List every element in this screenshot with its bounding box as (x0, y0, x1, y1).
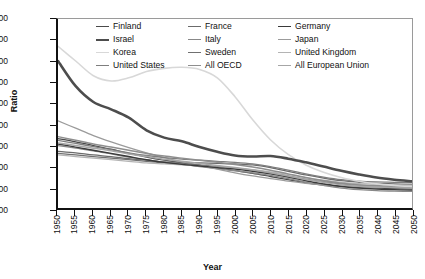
y-tick-label: 2.00 (0, 184, 8, 194)
x-tick-label: 2045 (391, 215, 401, 234)
legend-label: France (205, 21, 232, 32)
legend-label: Sweden (205, 47, 236, 58)
legend-item-united-states[interactable]: United States (96, 60, 188, 71)
legend-item-germany[interactable]: Germany (278, 21, 404, 32)
x-tick-label: 1995 (212, 215, 222, 234)
y-tick-label: 12.00 (0, 77, 8, 87)
x-tick-label: 1960 (87, 215, 97, 234)
y-axis-title: Ratio (9, 71, 19, 131)
legend-swatch-icon (188, 52, 201, 53)
x-tick-label: 2050 (409, 215, 419, 234)
legend-label: Korea (113, 47, 136, 58)
legend-item-japan[interactable]: Japan (278, 34, 404, 45)
x-tick-label: 2035 (355, 215, 365, 234)
x-tick-label: 1975 (141, 215, 151, 234)
x-tick-label: 1955 (69, 215, 79, 234)
chart-legend: FinlandFranceGermanyIsraelItalyJapanKore… (96, 20, 408, 72)
legend-label: Finland (113, 21, 141, 32)
legend-item-united-kingdom[interactable]: United Kingdom (278, 47, 404, 58)
x-tick-label: 2015 (284, 215, 294, 234)
legend-item-all-european-union[interactable]: All European Union (278, 60, 404, 71)
legend-swatch-icon (278, 52, 291, 53)
legend-label: Germany (295, 21, 330, 32)
legend-label: United Kingdom (295, 47, 356, 58)
legend-item-sweden[interactable]: Sweden (188, 47, 278, 58)
legend-label: All European Union (295, 60, 369, 71)
legend-swatch-icon (96, 65, 109, 66)
legend-swatch-icon (96, 52, 109, 53)
y-tick-label: 14.00 (0, 56, 8, 66)
legend-swatch-icon (96, 39, 109, 41)
x-tick-label: 2030 (337, 215, 347, 234)
x-tick-label: 1950 (52, 215, 62, 234)
legend-swatch-icon (188, 65, 201, 66)
x-tick-label: 1990 (194, 215, 204, 234)
legend-swatch-icon (188, 39, 201, 40)
y-tick-label: 6.00 (0, 141, 8, 151)
legend-swatch-icon (278, 39, 291, 40)
x-tick-label: 2000 (230, 215, 240, 234)
legend-item-italy[interactable]: Italy (188, 34, 278, 45)
legend-label: United States (113, 60, 165, 71)
x-tick-label: 1970 (123, 215, 133, 234)
y-tick-label: 10.00 (0, 98, 8, 108)
y-tick-label: 8.00 (0, 120, 8, 130)
legend-item-all-oecd[interactable]: All OECD (188, 60, 278, 71)
x-tick-label: 1965 (105, 215, 115, 234)
chart-figure: Ratio Year 0.002.004.006.008.0010.0012.0… (0, 0, 425, 279)
x-axis-title: Year (0, 262, 425, 272)
legend-swatch-icon (278, 65, 291, 66)
x-tick-label: 2020 (301, 215, 311, 234)
y-tick-label: 16.00 (0, 34, 8, 44)
legend-item-france[interactable]: France (188, 21, 278, 32)
legend-item-finland[interactable]: Finland (96, 21, 188, 32)
y-tick-label: 4.00 (0, 162, 8, 172)
legend-label: Italy (205, 34, 221, 45)
legend-swatch-icon (188, 26, 201, 27)
legend-item-israel[interactable]: Israel (96, 34, 188, 45)
legend-swatch-icon (278, 26, 291, 27)
x-tick-label: 2040 (373, 215, 383, 234)
x-tick-label: 2010 (266, 215, 276, 234)
y-tick-label: 0.00 (0, 205, 8, 215)
legend-swatch-icon (96, 26, 109, 27)
series-line (58, 61, 412, 181)
x-tick-label: 1985 (176, 215, 186, 234)
x-tick-label: 1980 (159, 215, 169, 234)
x-tick-label: 2005 (248, 215, 258, 234)
legend-label: All OECD (205, 60, 242, 71)
legend-item-korea[interactable]: Korea (96, 47, 188, 58)
legend-label: Japan (295, 34, 318, 45)
series-line (58, 137, 412, 187)
y-tick-label: 18.00 (0, 13, 8, 23)
x-tick-label: 2025 (319, 215, 329, 234)
legend-label: Israel (113, 34, 134, 45)
